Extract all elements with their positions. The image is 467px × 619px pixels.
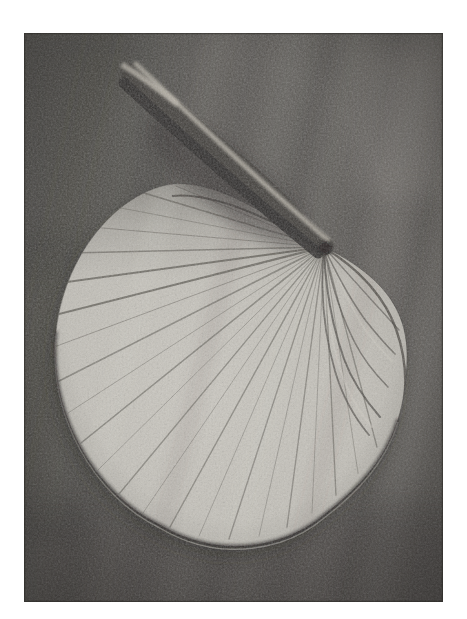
fossil-leaf-photograph	[24, 33, 443, 602]
photograph-canvas	[24, 33, 443, 602]
print-margin	[0, 0, 467, 619]
vignette	[24, 33, 443, 602]
